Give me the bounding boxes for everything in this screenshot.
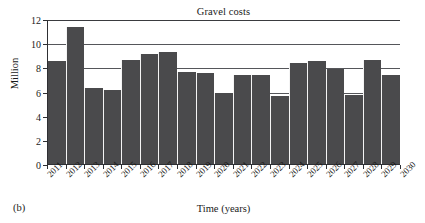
y-tick-mark-4	[43, 117, 47, 118]
bar-2017	[158, 52, 177, 164]
bar-2019	[196, 73, 215, 164]
bar-2013	[84, 88, 103, 164]
bar-2024	[289, 63, 308, 165]
bar-2021	[233, 75, 252, 164]
bar-2012	[66, 27, 85, 164]
y-axis-label: Million	[9, 44, 20, 104]
plot-area: 024681012 201120122013201420152016201720…	[47, 20, 400, 165]
y-tick-label-4: 4	[36, 111, 41, 122]
x-tick-label-2030: 2030	[398, 160, 418, 180]
bar-2025	[307, 61, 326, 164]
bar-2026	[326, 69, 345, 164]
y-axis-line	[47, 20, 48, 165]
y-tick-label-10: 10	[31, 39, 41, 50]
y-tick-mark-8	[43, 68, 47, 69]
bar-2022	[251, 75, 270, 164]
bar-2020	[214, 93, 233, 164]
bar-2027	[344, 95, 363, 164]
gridline-12	[47, 20, 400, 21]
bar-2011	[47, 61, 66, 164]
y-tick-label-8: 8	[36, 63, 41, 74]
figure-panel-b: Gravel costs Million 024681012 201120122…	[0, 0, 425, 223]
bar-2028	[363, 60, 382, 164]
bar-2014	[103, 90, 122, 164]
y-tick-mark-6	[43, 93, 47, 94]
bar-2018	[177, 72, 196, 164]
chart-title: Gravel costs	[47, 6, 400, 17]
panel-caption: (b)	[13, 202, 25, 213]
y-tick-label-12: 12	[31, 15, 41, 26]
y-tick-label-0: 0	[36, 160, 41, 171]
y-tick-label-2: 2	[36, 135, 41, 146]
bar-2016	[140, 54, 159, 164]
y-tick-mark-10	[43, 44, 47, 45]
bar-2029	[381, 75, 400, 164]
gridline-10	[47, 44, 400, 45]
y-tick-mark-12	[43, 20, 47, 21]
gridline-8	[47, 68, 400, 69]
y-tick-label-6: 6	[36, 87, 41, 98]
x-axis-label: Time (years)	[47, 203, 400, 214]
y-tick-mark-2	[43, 141, 47, 142]
bar-2015	[121, 60, 140, 164]
bar-2023	[270, 96, 289, 164]
